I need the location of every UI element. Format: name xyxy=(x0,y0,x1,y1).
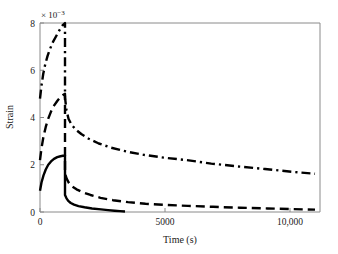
x-tick-label: 5000 xyxy=(156,217,175,227)
x-axis-label: Time (s) xyxy=(163,234,197,246)
chart-canvas: × 10−3 02468 0500010,000 Time (s) Strain xyxy=(0,0,338,254)
y-tick-label: 6 xyxy=(30,66,35,76)
strain-vs-time-chart: × 10−3 02468 0500010,000 Time (s) Strain xyxy=(0,0,338,254)
x-tick-label: 0 xyxy=(38,217,43,227)
x-tick-label: 10,000 xyxy=(277,217,303,227)
y-tick-label: 8 xyxy=(30,19,35,29)
y-tick-label: 4 xyxy=(30,113,35,123)
y-tick-label: 0 xyxy=(30,208,35,218)
y-axis-label: Strain xyxy=(4,105,15,129)
figure-background xyxy=(0,0,338,254)
y-tick-label: 2 xyxy=(30,160,35,170)
